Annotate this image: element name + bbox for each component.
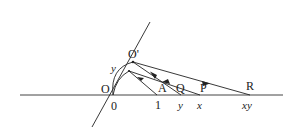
label-Q: Q [176, 81, 185, 95]
label-O: O [101, 82, 110, 96]
coord-1: 1 [155, 98, 161, 112]
label-R: R [246, 79, 254, 93]
diagram-canvas: O 0 O' y A 1 Q y P x R xy [0, 0, 299, 133]
slanted-axis [92, 22, 150, 127]
label-arc-y: y [110, 62, 116, 74]
point-oprime [132, 61, 135, 64]
point-inner [128, 70, 130, 72]
label-P: P [200, 81, 207, 95]
coord-xy: xy [241, 99, 252, 111]
label-A: A [158, 81, 167, 95]
geometric-multiplication-diagram: O 0 O' y A 1 Q y P x R xy [0, 0, 299, 133]
coord-y: y [177, 99, 183, 111]
coord-x: x [196, 99, 202, 111]
coord-0: 0 [111, 99, 117, 113]
label-O-prime: O' [128, 47, 139, 61]
